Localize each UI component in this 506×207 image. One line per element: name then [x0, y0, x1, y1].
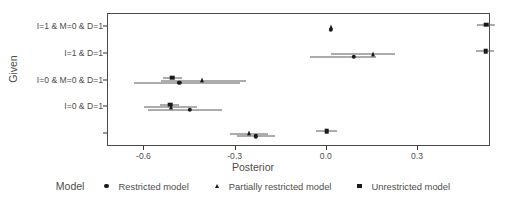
- circle-marker-icon: [98, 184, 114, 188]
- circle-marker: [188, 107, 192, 111]
- x-axis-tick: [417, 146, 418, 150]
- legend-item-partially-restricted-model[interactable]: Partially restricted model: [209, 181, 332, 192]
- legend-title: Model: [56, 180, 85, 192]
- x-axis-title: Posterior: [0, 161, 506, 173]
- legend-item-label: Partially restricted model: [229, 181, 332, 192]
- x-axis-tick-label: 0.0: [320, 151, 332, 161]
- y-axis-tick-label-group: I=1 & M=0 & D=1I=1 & D=1I=0 & M=0 & D=1I…: [0, 0, 103, 207]
- square-marker: [483, 49, 488, 54]
- y-axis-tick-label: I=0 & M=0 & D=1: [3, 75, 103, 85]
- square-marker-icon: [351, 184, 367, 188]
- legend-item-restricted-model[interactable]: Restricted model: [98, 181, 188, 192]
- x-axis-tick: [235, 146, 236, 150]
- circle-marker: [351, 54, 355, 58]
- error-bar: [331, 53, 396, 54]
- square-marker: [484, 22, 489, 27]
- legend-item-label: Restricted model: [118, 181, 188, 192]
- square-marker: [325, 129, 330, 134]
- legend: Model Restricted model Partially restric…: [0, 180, 506, 192]
- x-axis-tick-label: -0.3: [227, 151, 242, 161]
- y-axis-tick-label: I=1 & D=1: [3, 48, 103, 58]
- circle-marker: [177, 81, 181, 85]
- error-bar: [310, 56, 376, 57]
- error-bar: [148, 109, 222, 110]
- x-axis-tick-label: -0.6: [136, 151, 151, 161]
- y-axis-tick-label: I=1 & M=0 & D=1: [3, 21, 103, 31]
- triangle-marker-icon: [209, 184, 225, 188]
- forest-plot-figure: Given I=1 & M=0 & D=1I=1 & D=1I=0 & M=0 …: [0, 0, 506, 207]
- plot-panel: [107, 13, 490, 146]
- x-axis-tick: [326, 146, 327, 150]
- circle-marker: [328, 28, 332, 32]
- legend-item-unrestricted-model[interactable]: Unrestricted model: [351, 181, 450, 192]
- circle-marker: [254, 134, 258, 138]
- y-axis-tick-label: I=0 & D=1: [3, 101, 103, 111]
- error-bar: [134, 83, 240, 84]
- x-axis-tick-label: 0.3: [411, 151, 423, 161]
- legend-item-label: Unrestricted model: [371, 181, 450, 192]
- x-axis-tick: [143, 146, 144, 150]
